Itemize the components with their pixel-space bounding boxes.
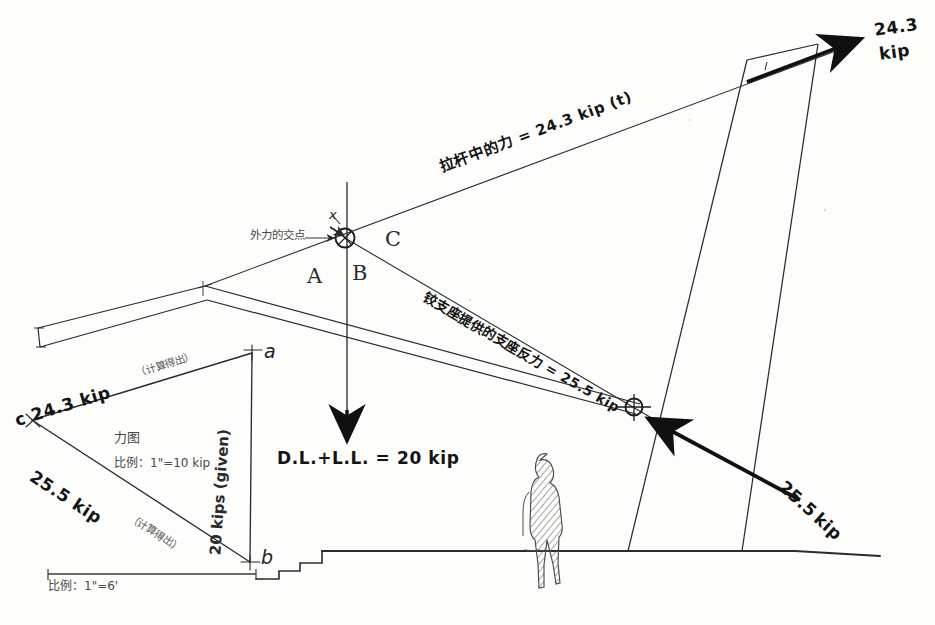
mast-tower [628,44,818,551]
tie-rod-line [205,42,860,286]
ground-and-steps [256,551,880,579]
force-diagram-scale: 比例：1"=10 kip [114,457,210,470]
intersection-x-marker: x [329,208,337,222]
person-silhouette-icon [523,454,562,588]
tie-tension-arrow [747,40,858,82]
force-diagram-title: 力图 [114,431,140,445]
force-intersection-label: 外力的交点 [250,229,305,241]
applied-load-label: D.L.+L.L. = 20 kip [277,450,459,468]
bow-notation-b: B [352,262,367,284]
force-diagram-point-b: b [261,548,273,568]
bow-notation-c: C [385,228,401,250]
sketch-sheet: 拉杆中的力 = 24.3 kip (t) 铰支座提供的支座反力 = 25.5 k… [0,0,935,625]
force-diagram-point-a: a [264,342,276,362]
paper-specks [159,119,826,471]
drawing-scale-label: 比例：1"=6' [48,580,118,593]
bow-notation-a: A [307,265,322,287]
pin-support-node [618,394,651,421]
cantilever-roof-beam [34,281,640,414]
